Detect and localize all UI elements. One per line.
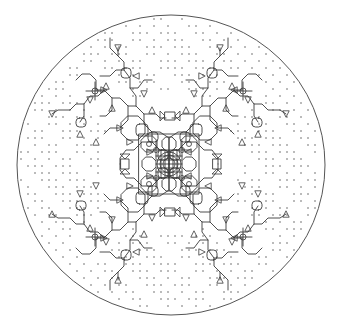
dot-lattice	[20, 18, 315, 306]
fractal-diagram	[0, 0, 340, 330]
circular-boundary	[17, 15, 325, 315]
hourglass-marker	[120, 154, 130, 174]
hourglass-marker	[160, 111, 180, 121]
core-rings	[121, 116, 217, 212]
hourglass-marker	[160, 207, 180, 217]
diagram-canvas	[0, 0, 340, 330]
